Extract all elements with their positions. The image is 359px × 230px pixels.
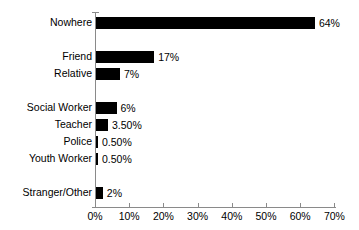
x-tick-label: 70% (324, 210, 345, 222)
table-row: Teacher3.50% (0, 116, 359, 133)
y-axis-top-cap (92, 12, 99, 13)
table-row: Friend17% (0, 48, 359, 65)
x-tick-mark (232, 203, 233, 208)
category-label: Friend (0, 48, 92, 65)
table-row: Relative7% (0, 65, 359, 82)
bar-group: 6% (96, 99, 136, 116)
x-tick-mark (334, 203, 335, 208)
bar (96, 119, 108, 131)
table-row: Stranger/Other2% (0, 184, 359, 201)
bar-value-label: 0.50% (102, 153, 132, 165)
category-label: Relative (0, 65, 92, 82)
bar-chart: Nowhere64%Friend17%Relative7%Social Work… (0, 0, 359, 230)
x-tick-label: 50% (255, 210, 276, 222)
bar-group: 64% (96, 14, 340, 31)
x-tick-label: 10% (119, 210, 140, 222)
bar-group: 0.50% (96, 150, 132, 167)
bar-group: 3.50% (96, 116, 142, 133)
bar-group: 2% (96, 184, 122, 201)
x-tick-mark (129, 203, 130, 208)
category-label: Social Worker (0, 99, 92, 116)
x-tick-label: 40% (221, 210, 242, 222)
x-tick-mark (95, 203, 96, 208)
bar (96, 51, 154, 63)
x-tick-label: 60% (290, 210, 311, 222)
category-label: Teacher (0, 116, 92, 133)
bar-value-label: 17% (158, 51, 179, 63)
bar (96, 102, 117, 114)
table-row: Police0.50% (0, 133, 359, 150)
bar-group: 7% (96, 65, 139, 82)
category-label: Police (0, 133, 92, 150)
bar (96, 136, 98, 148)
category-label: Youth Worker (0, 150, 92, 167)
bar-group: 0.50% (96, 133, 132, 150)
x-tick-label: 0% (87, 210, 102, 222)
bar (96, 153, 98, 165)
bar (96, 187, 103, 199)
x-tick-label: 20% (153, 210, 174, 222)
bar-value-label: 3.50% (112, 119, 142, 131)
bar (96, 17, 315, 29)
bar-value-label: 0.50% (102, 136, 132, 148)
x-tick-mark (163, 203, 164, 208)
category-label: Stranger/Other (0, 184, 92, 201)
table-row: Youth Worker0.50% (0, 150, 359, 167)
x-tick-mark (198, 203, 199, 208)
bar-value-label: 64% (319, 17, 340, 29)
bar-value-label: 2% (107, 187, 122, 199)
x-tick-mark (266, 203, 267, 208)
x-tick-mark (300, 203, 301, 208)
bar-value-label: 6% (121, 102, 136, 114)
bar (96, 68, 120, 80)
category-label: Nowhere (0, 14, 92, 31)
bar-value-label: 7% (124, 68, 139, 80)
x-tick-label: 30% (187, 210, 208, 222)
bar-group: 17% (96, 48, 179, 65)
table-row: Social Worker6% (0, 99, 359, 116)
table-row: Nowhere64% (0, 14, 359, 31)
